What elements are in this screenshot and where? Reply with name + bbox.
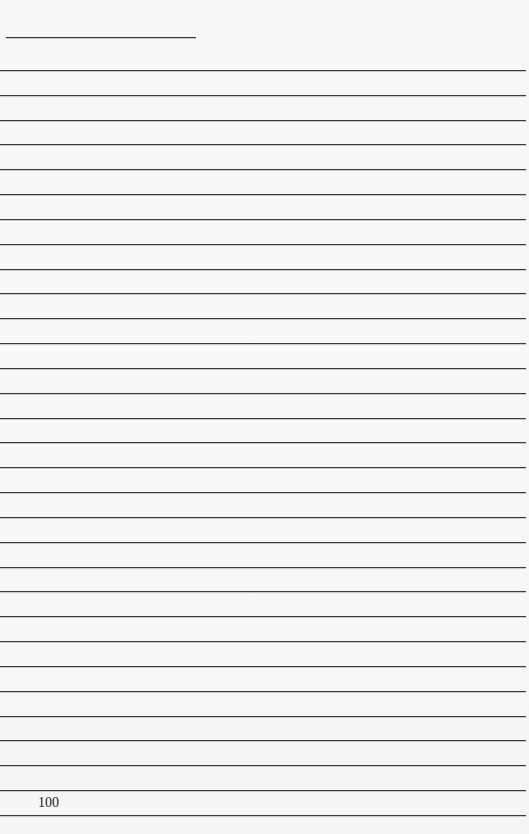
ruled-line [0,70,526,71]
ruled-line [0,691,526,692]
ruled-line [0,740,526,741]
ruled-line [0,244,526,245]
ruled-line [0,790,526,791]
ruled-line [0,567,526,568]
page-number: 100 [38,795,59,811]
ruled-line [0,293,526,294]
ruled-line [0,641,526,642]
ruled-line [0,442,526,443]
ruled-line [0,194,526,195]
ruled-line [0,666,526,667]
ruled-line [0,616,526,617]
ruled-line [0,418,526,419]
ruled-line [0,467,526,468]
ruled-line [0,716,526,717]
ruled-line [0,169,526,170]
ruled-line [0,765,526,766]
notebook-page: 100 [0,0,529,834]
ruled-line [0,318,526,319]
ruled-line [0,95,526,96]
ruled-line [0,492,526,493]
ruled-line [0,120,526,121]
ruled-line [0,219,526,220]
ruled-line [0,368,526,369]
ruled-line [0,343,526,344]
ruled-line [0,393,526,394]
ruled-lines [0,0,529,834]
ruled-line [0,144,526,145]
ruled-line [0,517,526,518]
ruled-line [0,591,526,592]
ruled-line [0,542,526,543]
ruled-line [0,815,526,816]
ruled-line [0,269,526,270]
